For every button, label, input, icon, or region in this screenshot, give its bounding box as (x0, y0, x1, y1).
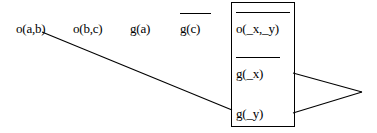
goal-literal-2: o(b,c) (73, 22, 102, 35)
diagram-canvas: o(a,b) o(b,c) g(a) g(c) o(_x,_y) g(_x) g… (0, 0, 377, 133)
overline-goal-4 (180, 13, 211, 14)
connector-goal-to-clause (42, 32, 232, 110)
overline-clause-literal-2 (236, 57, 280, 58)
clause-literal-1: o(_x,_y) (236, 22, 279, 35)
connector-clause-upper-to-apex (293, 73, 362, 92)
goal-literal-3: g(a) (130, 22, 150, 35)
clause-literal-2: g(_x) (236, 67, 263, 80)
overline-clause-literal-1 (236, 12, 290, 13)
goal-literal-4: g(c) (180, 22, 200, 35)
connector-clause-lower-to-apex (293, 92, 362, 113)
clause-literal-3: g(_y) (236, 107, 263, 120)
connector-layer (0, 0, 377, 133)
goal-literal-1: o(a,b) (16, 22, 45, 35)
